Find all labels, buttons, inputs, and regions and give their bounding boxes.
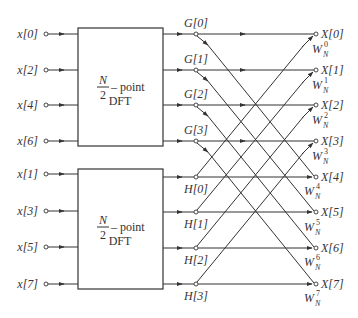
input-label: x[0] bbox=[16, 27, 38, 41]
svg-text:N: N bbox=[322, 157, 329, 166]
svg-text:W: W bbox=[312, 149, 323, 163]
output-label: X[4] bbox=[320, 170, 344, 184]
dft-block-even: N 2 – point DFT bbox=[78, 28, 163, 146]
input-node bbox=[44, 68, 48, 72]
input-node bbox=[44, 209, 48, 213]
input-label: x[1] bbox=[16, 167, 38, 181]
svg-text:4: 4 bbox=[316, 182, 320, 191]
dft2-numerator: N bbox=[98, 213, 108, 227]
svg-text:3: 3 bbox=[324, 147, 328, 156]
g-node-label: G[3] bbox=[184, 123, 208, 137]
h-node-label: H[3] bbox=[183, 289, 208, 303]
inputs-odd: x[1] x[3] x[5] x[7] bbox=[16, 167, 78, 291]
inputs-even: x[0] x[2] x[4] x[6] bbox=[16, 27, 78, 148]
svg-text:5: 5 bbox=[316, 218, 320, 227]
dft1-sublabel: DFT bbox=[109, 94, 132, 108]
svg-text:6: 6 bbox=[316, 253, 320, 262]
dft-block-odd: N 2 – point DFT bbox=[78, 169, 163, 289]
input-x2: x[2] bbox=[16, 63, 78, 77]
h-node-label: H[0] bbox=[183, 182, 208, 196]
svg-text:2: 2 bbox=[324, 111, 328, 120]
twiddle-w7: W7N bbox=[304, 289, 321, 308]
dft2-sublabel: DFT bbox=[109, 234, 132, 248]
input-node bbox=[44, 245, 48, 249]
output-label: X[1] bbox=[320, 63, 344, 77]
output-label: X[2] bbox=[320, 98, 344, 112]
svg-text:7: 7 bbox=[316, 289, 320, 298]
twiddle-w6: W6N bbox=[304, 253, 321, 272]
g-node-label: G[0] bbox=[184, 16, 208, 30]
input-x7: x[7] bbox=[16, 277, 78, 291]
input-label: x[6] bbox=[16, 134, 38, 148]
input-x1: x[1] bbox=[16, 167, 78, 181]
twiddle-w4: W4N bbox=[304, 182, 321, 201]
output-label: X[7] bbox=[320, 277, 344, 291]
h-node-label: H[1] bbox=[183, 217, 208, 231]
butterfly-straight-paths bbox=[198, 34, 314, 284]
output-label: X[5] bbox=[320, 205, 344, 219]
input-x0: x[0] bbox=[16, 27, 78, 41]
twiddle-w2: W2N bbox=[312, 111, 329, 130]
svg-text:W: W bbox=[312, 42, 323, 56]
input-label: x[3] bbox=[16, 204, 38, 218]
input-node bbox=[44, 172, 48, 176]
svg-text:0: 0 bbox=[324, 40, 328, 49]
svg-text:N: N bbox=[314, 263, 321, 272]
fft-flow-graph: N 2 – point DFT N 2 – point DFT x[0] x[2… bbox=[0, 0, 358, 318]
dft1-label: – point bbox=[110, 80, 145, 94]
svg-text:N: N bbox=[322, 121, 329, 130]
g-node-label: G[1] bbox=[184, 52, 208, 66]
butterfly-diagonals-up bbox=[197, 36, 313, 282]
input-x3: x[3] bbox=[16, 204, 78, 218]
output-label: X[3] bbox=[320, 134, 344, 148]
twiddle-w3: W3N bbox=[312, 147, 329, 166]
input-label: x[4] bbox=[16, 98, 38, 112]
svg-text:N: N bbox=[314, 192, 321, 201]
butterfly-diagonals-down bbox=[197, 36, 314, 283]
input-node bbox=[44, 139, 48, 143]
output-label: X[6] bbox=[320, 241, 344, 255]
g-node-label: G[2] bbox=[184, 87, 208, 101]
input-label: x[2] bbox=[16, 63, 38, 77]
twiddle-w1: W1N bbox=[312, 76, 329, 95]
g-nodes: G[0] G[1] G[2] G[3] bbox=[184, 16, 208, 143]
dft1-denominator: 2 bbox=[100, 88, 106, 102]
dft2-label: – point bbox=[110, 220, 145, 234]
input-x6: x[6] bbox=[16, 134, 78, 148]
svg-text:N: N bbox=[314, 228, 321, 237]
input-node bbox=[44, 32, 48, 36]
svg-text:W: W bbox=[304, 184, 315, 198]
input-label: x[5] bbox=[16, 240, 38, 254]
svg-text:N: N bbox=[322, 86, 329, 95]
twiddle-w0: W0N bbox=[312, 40, 329, 59]
svg-text:W: W bbox=[304, 220, 315, 234]
svg-text:1: 1 bbox=[324, 76, 328, 85]
output-label: X[0] bbox=[320, 27, 344, 41]
h-node-label: H[2] bbox=[183, 253, 208, 267]
svg-text:W: W bbox=[312, 113, 323, 127]
svg-text:W: W bbox=[304, 291, 315, 305]
input-x5: x[5] bbox=[16, 240, 78, 254]
input-x4: x[4] bbox=[16, 98, 78, 112]
block-outputs bbox=[163, 34, 194, 284]
svg-text:N: N bbox=[314, 299, 321, 308]
input-node bbox=[44, 103, 48, 107]
svg-text:W: W bbox=[312, 78, 323, 92]
svg-text:W: W bbox=[304, 255, 315, 269]
dft2-denominator: 2 bbox=[100, 228, 106, 242]
dft1-numerator: N bbox=[98, 73, 108, 87]
svg-text:N: N bbox=[322, 50, 329, 59]
input-label: x[7] bbox=[16, 277, 38, 291]
twiddle-w5: W5N bbox=[304, 218, 321, 237]
input-node bbox=[44, 282, 48, 286]
